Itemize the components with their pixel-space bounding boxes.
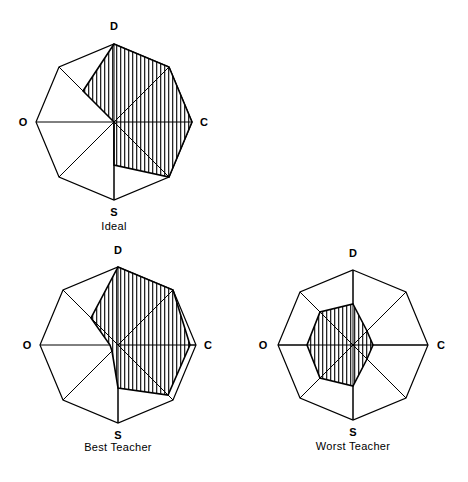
axis-label-top: D [114, 244, 122, 256]
axis-label-left: O [23, 339, 32, 351]
chart-caption-ideal: Ideal [0, 220, 228, 232]
radar-svg-worst: D C S O [238, 240, 468, 470]
axis-label-top: D [110, 20, 118, 32]
radar-svg-ideal: D C S O [0, 0, 240, 238]
axis-label-top: D [349, 247, 357, 259]
axis-label-bottom: S [114, 429, 121, 441]
axis-label-right: C [437, 339, 445, 351]
axis-label-left: O [259, 339, 268, 351]
chart-best-teacher: D C S O Best Teacher [0, 240, 244, 470]
axis-label-right: C [204, 339, 212, 351]
chart-ideal: D C S O Ideal [0, 0, 240, 238]
radar-svg-best: D C S O [0, 240, 244, 470]
chart-worst-teacher: D C S O Worst Teacher [238, 240, 468, 470]
chart-caption-worst: Worst Teacher [238, 440, 468, 452]
axis-label-bottom: S [110, 206, 117, 218]
axis-label-bottom: S [349, 426, 356, 438]
axis-spokes-overlay [278, 270, 428, 420]
chart-caption-best: Best Teacher [0, 441, 236, 453]
axis-label-left: O [19, 116, 28, 128]
axis-label-right: C [200, 116, 208, 128]
